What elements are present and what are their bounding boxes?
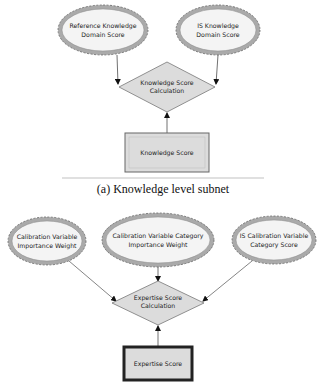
- is-knowledge-domain-score-node[interactable]: IS Knowledge Domain Score: [176, 5, 260, 55]
- node-label-line2: Domain Score: [81, 31, 124, 38]
- knowledge-score-calculation-node[interactable]: Knowledge Score Calculation: [119, 62, 215, 112]
- node-label-line2: Category Score: [250, 241, 298, 249]
- knowledge-score-node[interactable]: Knowledge Score: [125, 133, 209, 172]
- knowledge-subnet: Reference Knowledge Domain Score IS Know…: [58, 5, 264, 196]
- is-calibration-variable-category-score-node[interactable]: IS Calibration Variable Category Score: [232, 216, 316, 264]
- node-label-line1: Knowledge Score: [140, 79, 194, 87]
- node-label-line2: Domain Score: [196, 31, 239, 38]
- node-label-line1: IS Knowledge: [197, 22, 239, 30]
- expertise-score-calculation-node[interactable]: Expertise Score Calculation: [112, 281, 204, 325]
- node-label-line2: Importance Weight: [129, 241, 189, 249]
- node-label: Knowledge Score: [140, 149, 194, 157]
- subnet-caption: (a) Knowledge level subnet: [97, 182, 230, 196]
- edge-arrow: [216, 55, 218, 84]
- node-label-line1: IS Calibration Variable: [240, 232, 309, 239]
- expertise-score-node[interactable]: Expertise Score: [124, 347, 192, 380]
- node-label-line2: Importance Weight: [18, 242, 78, 250]
- node-label-line2: Calculation: [150, 87, 185, 94]
- node-label-line1: Calibration Variable Category: [113, 232, 204, 240]
- expertise-subnet: Calibration Variable Importance Weight C…: [8, 213, 316, 380]
- edge-arrow: [203, 261, 252, 301]
- node-label-line1: Reference Knowledge: [69, 22, 136, 30]
- diagram-canvas: Reference Knowledge Domain Score IS Know…: [0, 0, 323, 389]
- node-label-line1: Calibration Variable: [17, 233, 78, 240]
- node-label: Expertise Score: [134, 360, 183, 368]
- reference-knowledge-domain-score-node[interactable]: Reference Knowledge Domain Score: [58, 5, 148, 55]
- calibration-variable-category-importance-weight-node[interactable]: Calibration Variable Category Importance…: [102, 213, 214, 267]
- edge-arrow: [117, 55, 118, 84]
- edge-arrow: [69, 261, 116, 301]
- node-label-line1: Expertise Score: [134, 294, 183, 302]
- node-label-line2: Calculation: [141, 302, 176, 309]
- calibration-variable-importance-weight-node[interactable]: Calibration Variable Importance Weight: [8, 217, 86, 265]
